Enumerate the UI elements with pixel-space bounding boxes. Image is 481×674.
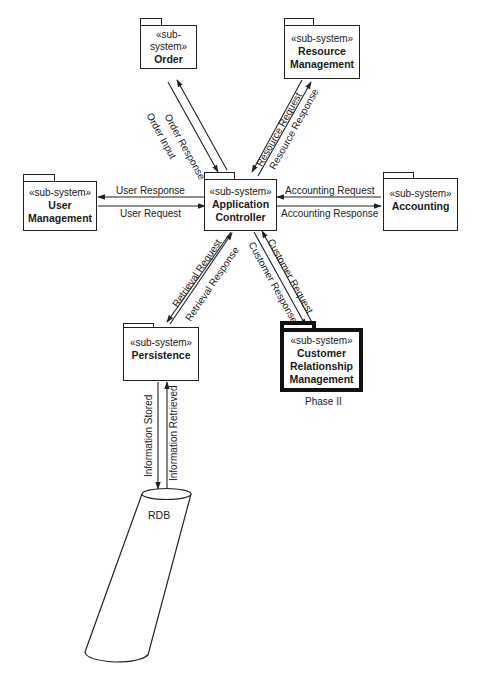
resource-name-line2: Management: [290, 58, 354, 71]
resource-package-tab: [284, 18, 314, 25]
retrieval-response-arrow: [170, 233, 232, 324]
resource-name-line1: Resource: [298, 45, 346, 58]
order-subsystem[interactable]: «sub-system» Order: [140, 25, 197, 69]
customer-relationship-management-subsystem[interactable]: «sub-system» Customer Relationship Manag…: [280, 328, 363, 392]
accounting-stereotype: «sub-system»: [389, 188, 451, 200]
rdb-label: RDB: [148, 509, 170, 521]
user-package-tab: [23, 174, 55, 181]
app-package-tab: [204, 172, 235, 179]
crm-stereotype: «sub-system»: [290, 335, 352, 347]
persistence-name: Persistence: [132, 349, 191, 362]
persistence-subsystem[interactable]: «sub-system» Persistence: [123, 327, 199, 381]
user-name-line2: Management: [28, 212, 92, 225]
application-controller-subsystem[interactable]: «sub-system» Application Controller: [204, 179, 277, 231]
resource-management-subsystem[interactable]: «sub-system» Resource Management: [284, 25, 360, 79]
connector-layer: [0, 0, 481, 674]
order-package-tab: [140, 18, 162, 25]
user-request-label: User Request: [120, 208, 181, 219]
crm-phase-caption: Phase II: [305, 396, 342, 407]
user-stereotype: «sub-system»: [29, 187, 91, 199]
app-name-line1: Application: [212, 198, 269, 211]
order-name: Order: [154, 53, 183, 66]
information-stored-label: Information Stored: [143, 395, 154, 477]
information-retrieved-label: Information Retrieved: [168, 385, 179, 481]
accounting-response-label: Accounting Response: [281, 208, 378, 219]
app-stereotype: «sub-system»: [209, 186, 271, 198]
accounting-subsystem[interactable]: «sub-system» Accounting: [383, 178, 458, 231]
crm-name-line1: Customer: [297, 347, 346, 360]
user-management-subsystem[interactable]: «sub-system» User Management: [23, 181, 97, 231]
persistence-stereotype: «sub-system»: [130, 337, 192, 349]
crm-name-line2: Relationship: [290, 360, 353, 373]
accounting-name: Accounting: [392, 200, 450, 213]
resource-stereotype: «sub-system»: [291, 33, 353, 45]
crm-name-line3: Management: [289, 373, 353, 386]
order-stereotype: «sub-system»: [141, 29, 196, 53]
app-name-line2: Controller: [215, 211, 265, 224]
user-name-line1: User: [48, 199, 71, 212]
rdb-cylinder-icon: [85, 489, 191, 663]
accounting-request-label: Accounting Request: [285, 185, 375, 196]
user-response-label: User Response: [116, 185, 185, 196]
